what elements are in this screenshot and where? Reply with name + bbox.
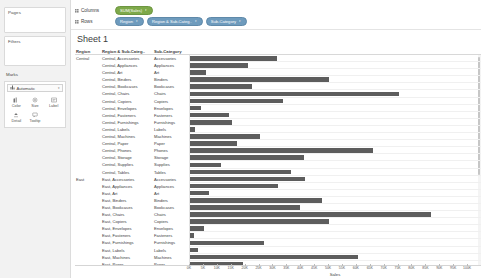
bar-mark[interactable]: [190, 198, 322, 203]
table-row[interactable]: Central, TablesTables: [75, 169, 481, 176]
bar-rows-container[interactable]: CentralCentral, AccessoriesAccessoriesCe…: [75, 55, 481, 265]
header-combined[interactable]: Region & Sub-Categ..: [101, 49, 153, 55]
table-row[interactable]: Central, EnvelopesEnvelopes: [75, 105, 481, 112]
table-row[interactable]: Central, ChairsChairs: [75, 90, 481, 97]
table-row[interactable]: Central, CopiersCopiers: [75, 98, 481, 105]
table-header-row: Region Region & Sub-Categ.. Sub-Category: [75, 47, 481, 55]
bar-mark[interactable]: [190, 155, 304, 160]
chevron-down-icon[interactable]: ▾: [58, 86, 60, 90]
cell-region-sub-category: East, Furnishings: [101, 239, 153, 246]
table-row[interactable]: East, ArtArt: [75, 190, 481, 197]
table-row[interactable]: East, FurnishingsFurnishings: [75, 239, 481, 246]
table-row[interactable]: East, CopiersCopiers: [75, 218, 481, 225]
bar-mark[interactable]: [190, 233, 194, 238]
table-row[interactable]: East, AppliancesAppliances: [75, 183, 481, 190]
pill-region[interactable]: Region ▾: [115, 17, 144, 25]
table-row[interactable]: Central, BindersBinders: [75, 76, 481, 83]
bar-track: [189, 140, 481, 147]
cell-sub-category: Paper: [153, 140, 189, 147]
table-row[interactable]: Central, PhonesPhones: [75, 147, 481, 154]
chevron-down-icon[interactable]: ▾: [239, 19, 241, 23]
bar-mark[interactable]: [190, 148, 373, 153]
bar-mark[interactable]: [190, 219, 329, 224]
table-row[interactable]: Central, MachinesMachines: [75, 133, 481, 140]
bar-mark[interactable]: [190, 226, 204, 231]
bar-mark[interactable]: [190, 134, 260, 139]
bar-mark[interactable]: [190, 163, 221, 168]
mark-type-dropdown[interactable]: Automatic ▾: [7, 84, 63, 92]
bar-mark[interactable]: [190, 99, 283, 104]
table-row[interactable]: East, ChairsChairs: [75, 211, 481, 218]
bar-mark[interactable]: [190, 92, 399, 97]
cell-sub-category: Supplies: [153, 161, 189, 168]
columns-shelf-dropzone[interactable]: SUM(Sales) ▾: [115, 5, 477, 16]
chevron-down-icon[interactable]: ▾: [195, 19, 197, 23]
cell-region-sub-category: East, Binders: [101, 197, 153, 204]
marks-label-button[interactable]: Label: [44, 94, 63, 110]
cell-region-sub-category: East, Labels: [101, 247, 153, 254]
bar-track: [189, 239, 481, 246]
bar-mark[interactable]: [190, 241, 264, 246]
chevron-down-icon[interactable]: ▾: [145, 8, 147, 12]
worksheet-main-area: Columns SUM(Sales) ▾ Rows Region: [71, 0, 481, 278]
columns-shelf-label-group: Columns: [75, 8, 111, 13]
header-region[interactable]: Region: [75, 49, 101, 55]
cell-sub-category: Furnishings: [153, 119, 189, 126]
pages-shelf[interactable]: Pages: [4, 7, 66, 33]
chevron-down-icon[interactable]: ▾: [136, 19, 138, 23]
bar-mark[interactable]: [190, 106, 201, 111]
table-row[interactable]: EastEast, AccessoriesAccessories: [75, 176, 481, 183]
bar-mark[interactable]: [190, 127, 195, 132]
table-row[interactable]: East, EnvelopesEnvelopes: [75, 225, 481, 232]
rows-shelf-dropzone[interactable]: Region ▾ Region & Sub-Categ.. ▾ Sub-Cate…: [115, 16, 477, 27]
bar-mark[interactable]: [190, 77, 329, 82]
table-row[interactable]: Central, FurnishingsFurnishings: [75, 119, 481, 126]
cell-region-sub-category: Central, Labels: [101, 126, 153, 133]
marks-detail-button[interactable]: Detail: [7, 110, 26, 126]
bar-mark[interactable]: [190, 70, 206, 75]
pill-sum-sales[interactable]: SUM(Sales) ▾: [115, 6, 153, 14]
bar-mark[interactable]: [190, 113, 229, 118]
filters-shelf[interactable]: Filters: [4, 36, 66, 66]
table-row[interactable]: Central, ArtArt: [75, 69, 481, 76]
bar-mark[interactable]: [190, 84, 252, 89]
table-row[interactable]: CentralCentral, AccessoriesAccessories: [75, 55, 481, 62]
bar-mark[interactable]: [190, 177, 305, 182]
bar-mark[interactable]: [190, 205, 300, 210]
cell-sub-category: Binders: [153, 76, 189, 83]
marks-color-button[interactable]: Color: [7, 94, 26, 110]
pill-region-sub-category[interactable]: Region & Sub-Categ.. ▾: [147, 17, 203, 25]
header-sub-category[interactable]: Sub-Category: [153, 49, 189, 55]
bar-track: [189, 169, 481, 176]
bar-mark[interactable]: [190, 255, 358, 260]
table-row[interactable]: Central, PaperPaper: [75, 140, 481, 147]
pill-sub-category[interactable]: Sub-Category ▾: [206, 17, 247, 25]
cell-region-sub-category: East, Chairs: [101, 211, 153, 218]
cell-sub-category: Accessories: [153, 55, 189, 62]
table-row[interactable]: Central, BookcasesBookcases: [75, 83, 481, 90]
table-row[interactable]: East, BookcasesBookcases: [75, 204, 481, 211]
table-row[interactable]: Central, LabelsLabels: [75, 126, 481, 133]
bar-mark[interactable]: [190, 141, 237, 146]
table-row[interactable]: East, LabelsLabels: [75, 247, 481, 254]
bar-mark[interactable]: [190, 248, 198, 253]
table-row[interactable]: Central, FastenersFasteners: [75, 112, 481, 119]
bar-mark[interactable]: [190, 191, 209, 196]
table-row[interactable]: East, FastenersFasteners: [75, 232, 481, 239]
table-row[interactable]: Central, SuppliesSupplies: [75, 161, 481, 168]
axis-left-spacer: [75, 266, 189, 278]
bar-mark[interactable]: [190, 212, 431, 217]
marks-tooltip-button[interactable]: Tooltip: [26, 110, 45, 126]
table-row[interactable]: East, BindersBinders: [75, 197, 481, 204]
table-row[interactable]: Central, StorageStorage: [75, 154, 481, 161]
bar-mark[interactable]: [190, 56, 277, 61]
bar-mark[interactable]: [190, 120, 232, 125]
marks-size-button[interactable]: Size: [26, 94, 45, 110]
table-row[interactable]: East, MachinesMachines: [75, 254, 481, 261]
bar-mark[interactable]: [190, 63, 248, 68]
table-row[interactable]: Central, AppliancesAppliances: [75, 62, 481, 69]
table-row[interactable]: East, PaperPaper: [75, 261, 481, 265]
bar-mark[interactable]: [190, 184, 278, 189]
axis-tick-label: 45K: [311, 266, 317, 270]
bar-mark[interactable]: [190, 170, 291, 175]
